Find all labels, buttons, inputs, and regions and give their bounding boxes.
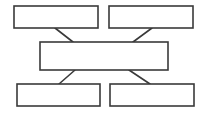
box-rect-bottom-right bbox=[110, 84, 194, 106]
box-rect-top-left bbox=[14, 6, 98, 28]
diagram-svg bbox=[0, 0, 207, 113]
connector-top-left-to-center bbox=[55, 28, 73, 42]
box-center bbox=[40, 42, 168, 70]
connector-center-to-bottom-left bbox=[59, 70, 75, 84]
connector-center-to-bottom-right bbox=[129, 70, 150, 84]
box-rect-top-right bbox=[109, 6, 193, 28]
box-bottom-left bbox=[17, 84, 100, 106]
box-top-left bbox=[14, 6, 98, 28]
box-rect-bottom-left bbox=[17, 84, 100, 106]
box-top-right bbox=[109, 6, 193, 28]
diagram-canvas bbox=[0, 0, 207, 113]
box-group bbox=[14, 6, 194, 106]
box-bottom-right bbox=[110, 84, 194, 106]
box-rect-center bbox=[40, 42, 168, 70]
connector-top-right-to-center bbox=[133, 28, 152, 42]
